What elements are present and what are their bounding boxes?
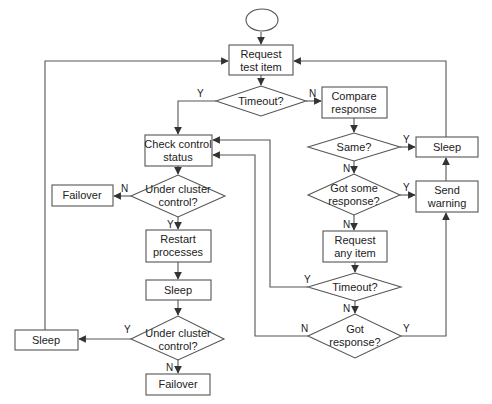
edge-timeout1-yes	[178, 101, 216, 134]
node-label: Timeout?	[332, 281, 377, 293]
node-label: Restart	[160, 233, 195, 245]
edge-label-timeout1-no: N	[309, 88, 316, 99]
node-label: response	[331, 103, 376, 115]
request-test-item-box: Request test item	[229, 45, 293, 75]
sleep-middle-box: Sleep	[146, 280, 211, 300]
got-some-response-decision: Got some response?	[308, 174, 400, 215]
edge-label-ucc2-no: N	[166, 362, 173, 373]
sleep-left-box: Sleep	[15, 330, 78, 350]
node-label: Compare	[331, 90, 376, 102]
edge-label-timeout1-yes: Y	[197, 88, 204, 99]
node-label: Failover	[158, 378, 197, 390]
node-label: test item	[240, 61, 282, 73]
under-cluster-control-decision-2: Under cluster control?	[131, 316, 224, 360]
edge-label-ucc2-yes: Y	[124, 324, 131, 335]
edge-label-same-no: N	[343, 163, 350, 174]
timeout-decision-1: Timeout?	[216, 86, 306, 116]
edge-label-same-yes: Y	[403, 134, 410, 145]
request-any-item-box: Request any item	[323, 231, 387, 262]
under-cluster-control-decision-1: Under cluster control?	[131, 175, 225, 217]
node-label: Sleep	[32, 334, 60, 346]
edge-gotresponse-no	[213, 155, 308, 336]
edge-label-gotsome-no: N	[343, 219, 350, 230]
node-label: Failover	[62, 189, 101, 201]
restart-processes-box: Restart processes	[146, 230, 211, 262]
got-response-decision: Got response?	[308, 314, 401, 358]
node-label: warning	[427, 197, 467, 209]
node-label: Under cluster	[145, 327, 211, 339]
node-label: Sleep	[164, 284, 192, 296]
edge-label-gotresponse-no: N	[301, 323, 308, 334]
node-label: Request	[241, 48, 282, 60]
node-label: processes	[153, 246, 204, 258]
node-label: response?	[328, 195, 379, 207]
node-label: Check control	[144, 138, 211, 150]
edge-label-ucc1-yes: Y	[167, 219, 174, 230]
compare-response-box: Compare response	[322, 87, 387, 118]
edge-gotresponse-yes	[401, 213, 446, 336]
node-label: Sleep	[433, 141, 461, 153]
node-label: control?	[158, 196, 197, 208]
node-label: response?	[329, 336, 380, 348]
failover-box-1: Failover	[52, 185, 113, 206]
start-node	[246, 9, 278, 31]
edge-label-gotsome-yes: Y	[403, 182, 410, 193]
same-decision: Same?	[308, 133, 400, 161]
edge-timeout2-yes	[213, 140, 308, 287]
node-label: any item	[334, 247, 376, 259]
node-label: Got some	[330, 182, 378, 194]
edge-label-gotresponse-yes: Y	[403, 323, 410, 334]
node-label: Got	[346, 323, 364, 335]
failover-box-2: Failover	[146, 374, 210, 395]
node-label: Timeout?	[238, 95, 283, 107]
node-label: Request	[335, 234, 376, 246]
edge-label-timeout2-yes: Y	[304, 274, 311, 285]
send-warning-box: Send warning	[416, 181, 478, 212]
edge-label-timeout2-no: N	[343, 303, 350, 314]
node-label: Send	[434, 184, 460, 196]
node-label: control?	[158, 340, 197, 352]
flowchart: Request test item Timeout? Compare respo…	[0, 0, 492, 404]
sleep-right-box: Sleep	[416, 137, 478, 157]
node-label: Under cluster	[145, 183, 211, 195]
node-label: Same?	[337, 141, 372, 153]
timeout-decision-2: Timeout?	[308, 273, 401, 301]
check-control-status-box: Check control status	[144, 135, 212, 166]
edge-label-ucc1-no: N	[121, 183, 128, 194]
node-label: status	[163, 151, 193, 163]
